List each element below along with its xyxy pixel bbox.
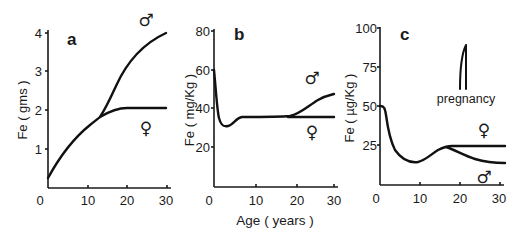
panel-b-ytick-80: 80 — [196, 24, 210, 39]
panel-b: 20 40 60 80 0 10 20 30 Fe ( mg/Kg ) b Ag… — [182, 24, 341, 228]
panel-c-ytick-100: 100 — [355, 21, 377, 36]
panel-b-y-label: Fe ( mg/Kg ) — [182, 74, 197, 146]
panel-c-male-curve — [446, 147, 505, 163]
panel-b-xtick-20: 20 — [290, 193, 304, 208]
panel-b-ytick-20: 20 — [196, 140, 210, 155]
panel-a-female-symbol: ♀ — [140, 118, 152, 138]
panel-a-male-symbol: ♂ — [138, 10, 153, 30]
iron-age-chart-figure: 1 2 3 4 0 10 20 30 Fe ( gms ) a ♂ ♀ 20 4… — [0, 0, 523, 243]
pregnancy-annotation: pregnancy — [437, 92, 496, 106]
panel-a-ytick-2: 2 — [35, 103, 42, 118]
panel-c-xtick-10: 10 — [413, 191, 427, 206]
panel-c-ytick-50: 50 — [363, 99, 377, 114]
panel-a-female-curve — [100, 108, 166, 117]
panel-c-xtick-0: 0 — [372, 191, 379, 206]
panel-a-y-label: Fe ( gms ) — [15, 80, 30, 139]
panel-a-xtick-0: 0 — [36, 193, 43, 208]
panel-c-ytick-25: 25 — [363, 138, 377, 153]
panel-c: 25 50 75 100 0 10 20 30 Fe ( µg/Kg ) c p… — [342, 21, 506, 206]
panel-b-xtick-0: 0 — [205, 193, 212, 208]
pregnancy-spike — [460, 45, 466, 89]
panel-c-male-symbol: ♂ — [476, 167, 491, 187]
panel-a-ytick-3: 3 — [35, 64, 42, 79]
panel-b-male-symbol: ♂ — [304, 68, 319, 88]
panel-c-xtick-20: 20 — [453, 191, 467, 206]
panel-b-ytick-60: 60 — [196, 63, 210, 78]
panel-c-y-label: Fe ( µg/Kg ) — [342, 74, 357, 143]
panel-b-xtick-10: 10 — [249, 193, 263, 208]
panel-c-label: c — [400, 25, 409, 44]
panel-b-xtick-30: 30 — [327, 193, 341, 208]
panel-a-male-curve — [48, 33, 166, 178]
panel-c-ytick-75: 75 — [363, 60, 377, 75]
panel-b-ytick-40: 40 — [196, 101, 210, 116]
x-axis-label: Age ( years ) — [236, 213, 313, 228]
panel-a-ytick-1: 1 — [35, 142, 42, 157]
panel-b-label: b — [234, 25, 244, 44]
panel-a-label: a — [67, 30, 77, 49]
panel-b-female-symbol: ♀ — [306, 122, 318, 142]
panel-a-xtick-10: 10 — [81, 193, 95, 208]
panel-c-xtick-30: 30 — [492, 191, 506, 206]
panel-a: 1 2 3 4 0 10 20 30 Fe ( gms ) a ♂ ♀ — [15, 10, 173, 208]
panel-a-xtick-20: 20 — [120, 193, 134, 208]
panel-a-ytick-4: 4 — [35, 26, 42, 41]
panel-a-xtick-30: 30 — [159, 193, 173, 208]
panel-c-female-symbol: ♀ — [478, 120, 490, 140]
